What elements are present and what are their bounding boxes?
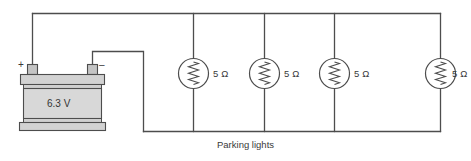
battery-top-cap bbox=[21, 75, 105, 85]
lamp-1-resistance-label: 5 Ω bbox=[213, 68, 229, 79]
battery-positive-sign: + bbox=[18, 60, 24, 70]
battery-positive-terminal bbox=[28, 65, 38, 75]
circuit-diagram: + – 6.3 V 5 Ω 5 Ω 5 Ω 5 Ω Parking lights bbox=[0, 0, 471, 161]
parking-lights-caption: Parking lights bbox=[217, 139, 274, 150]
battery-shoulder bbox=[24, 85, 102, 89]
battery-lower-lip bbox=[24, 119, 102, 123]
circuit-schematic-canvas bbox=[0, 0, 471, 161]
lamp-3-resistance-label: 5 Ω bbox=[354, 68, 370, 79]
battery-base bbox=[20, 123, 106, 131]
lamp-4-resistance-label: 5 Ω bbox=[452, 68, 468, 79]
lamp-2-resistance-label: 5 Ω bbox=[284, 68, 300, 79]
battery-negative-sign: – bbox=[99, 60, 105, 70]
battery-voltage-label: 6.3 V bbox=[47, 98, 70, 109]
battery-negative-terminal bbox=[88, 65, 98, 75]
